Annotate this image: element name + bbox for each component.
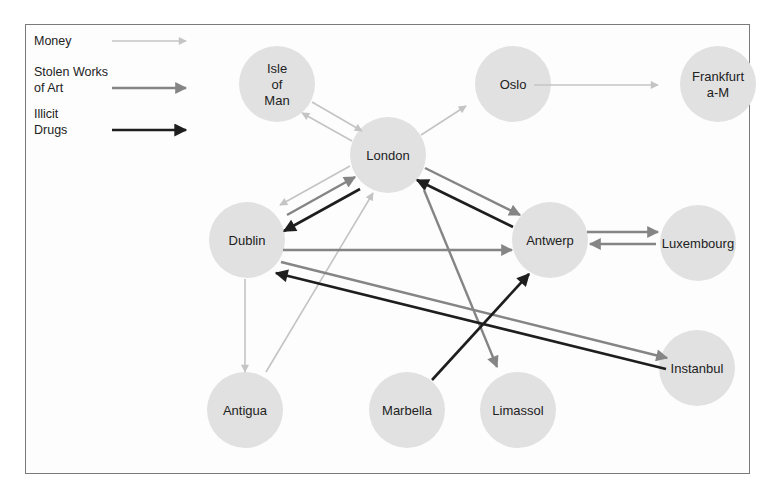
edge-art-dublin-to-instanbul [281, 262, 667, 358]
node-label: Luxembourg [662, 236, 734, 251]
legend-label: Drugs [34, 123, 67, 137]
edge-money-london-to-oslo [421, 106, 466, 135]
edge-money-isle_of_man-to-london [312, 102, 362, 131]
node-oslo: Oslo [475, 46, 551, 122]
node-london: London [350, 117, 426, 193]
node-label: Instanbul [671, 361, 724, 376]
legend-label: of Art [34, 81, 64, 95]
legend-item-art: Stolen Worksof Art [34, 65, 186, 95]
nodes: IsleofManOsloFrankfurta-MLondonDublinAnt… [207, 46, 756, 448]
legend-label: Money [34, 34, 72, 48]
legend-label: Illicit [34, 107, 59, 121]
legend-item-money: Money [34, 34, 186, 48]
node-marbella: Marbella [369, 372, 445, 448]
legend-label: Stolen Works [34, 65, 108, 79]
node-limassol: Limassol [480, 372, 556, 448]
node-label: Marbella [382, 403, 433, 418]
node-label: Oslo [500, 77, 527, 92]
node-antwerp: Antwerp [512, 202, 588, 278]
edge-money-london-to-isle_of_man [302, 113, 352, 141]
edges [245, 85, 667, 380]
edge-art-london-to-limassol [424, 190, 497, 367]
node-luxembourg: Luxembourg [660, 205, 736, 281]
node-label: Frankfurt [692, 69, 744, 84]
node-label: Isle [267, 61, 287, 76]
edge-drugs-marbella-to-antwerp [432, 274, 529, 380]
node-label: a-M [707, 85, 729, 100]
node-instanbul: Instanbul [659, 330, 735, 406]
node-label: Limassol [492, 403, 543, 418]
node-circle [680, 46, 756, 122]
node-label: Man [264, 93, 289, 108]
node-isle_of_man: IsleofMan [239, 46, 315, 122]
edge-drugs-instanbul-to-dublin [276, 273, 666, 369]
node-label: Dublin [229, 233, 266, 248]
node-frankfurt: Frankfurta-M [680, 46, 756, 122]
node-dublin: Dublin [209, 202, 285, 278]
node-label: Antwerp [526, 233, 574, 248]
network-diagram: MoneyStolen Worksof ArtIllicitDrugs Isle… [0, 0, 766, 489]
node-label: of [272, 77, 283, 92]
node-label: Antigua [223, 403, 268, 418]
node-label: London [366, 148, 409, 163]
node-antigua: Antigua [207, 372, 283, 448]
legend: MoneyStolen Worksof ArtIllicitDrugs [34, 34, 186, 137]
legend-item-drugs: IllicitDrugs [34, 107, 186, 137]
